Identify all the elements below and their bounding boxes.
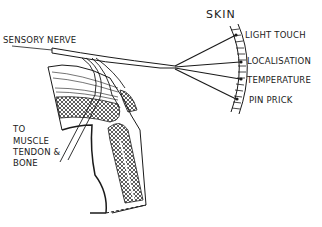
label-tendon: TENDON &	[13, 147, 60, 157]
sensory-nerve-leader	[12, 46, 52, 50]
patella	[120, 90, 137, 112]
label-light-touch: LIGHT TOUCH	[245, 30, 306, 40]
label-localisation: LOCALISATION	[247, 56, 311, 66]
label-muscle: MUSCLE	[13, 136, 49, 146]
label-to: TO	[13, 124, 25, 134]
sensory-nerve-diagram: SENSORY NERVE SKIN LIGHT TOUCH LOCALISAT…	[0, 0, 322, 227]
thigh-bands	[52, 72, 118, 100]
nerve-fibres-to-skin	[175, 35, 240, 99]
label-sensory-nerve: SENSORY NERVE	[3, 35, 76, 45]
label-temperature: TEMPERATURE	[247, 75, 311, 85]
label-skin: SKIN	[206, 10, 236, 20]
label-pin-prick: PIN PRICK	[249, 95, 293, 105]
label-bone: BONE	[13, 158, 38, 168]
